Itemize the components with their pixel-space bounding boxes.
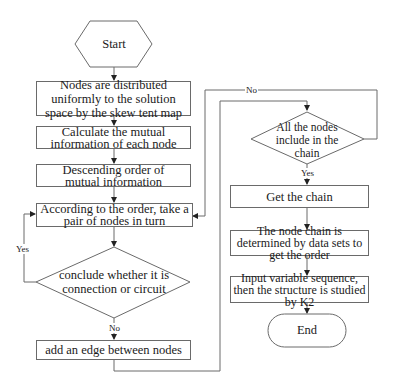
step-distribute-nodes: Nodes are distributed uniformly to the s… [36, 81, 191, 116]
decision-2-yes-label: Yes [300, 168, 315, 178]
step-k2-structure: Input variable sequence, then the struct… [230, 276, 369, 303]
decision-2-text: All the nodes include in the chain [262, 126, 352, 154]
start-label: Start [80, 36, 148, 52]
step-calculate-mutual-info: Calculate the mutual information of each… [36, 126, 191, 149]
step-determine-order: The node chain is determined by data set… [230, 230, 369, 256]
step-add-edge: add an edge between nodes [36, 340, 191, 360]
decision-1-text: conclude whether it is connection or cir… [56, 268, 172, 296]
decision-1-yes-label: Yes [15, 244, 30, 254]
step-descending-order: Descending order of mutual information [36, 164, 191, 187]
step-take-pair: According to the order, take a pair of n… [36, 203, 193, 227]
end-label: End [268, 322, 346, 338]
step-get-chain: Get the chain [230, 185, 369, 208]
decision-2-no-label: No [245, 85, 258, 95]
decision-1-no-label: No [108, 323, 121, 333]
